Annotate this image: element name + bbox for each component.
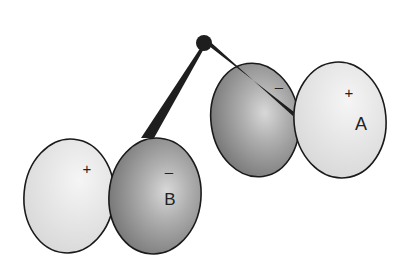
bond-to-b <box>141 45 206 138</box>
orbital-b: + – B <box>19 134 206 258</box>
orbital-b-positive-sign: + <box>83 160 92 177</box>
orbital-a-negative-sign: – <box>275 78 284 95</box>
orbital-b-negative-sign: – <box>165 163 174 180</box>
central-atom <box>196 35 212 51</box>
orbital-b-negative-lobe <box>104 134 206 258</box>
orbital-a: – + A <box>203 57 390 182</box>
orbital-b-positive-lobe <box>19 135 119 256</box>
orbital-diagram: + – B – + A <box>0 0 408 264</box>
orbital-a-label: A <box>355 114 367 134</box>
orbital-a-positive-lobe <box>289 58 391 182</box>
orbital-a-positive-sign: + <box>345 84 354 101</box>
orbital-a-negative-lobe <box>203 57 306 182</box>
orbital-b-label: B <box>164 190 175 209</box>
